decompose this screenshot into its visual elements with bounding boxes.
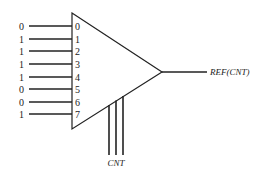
mux-diagram: REF(CNT) 0 1 1 1 1 0 0 1 0 1 2 3 4 5 6 7… — [0, 0, 271, 173]
output-label: REF(CNT) — [209, 67, 250, 77]
input-index-1: 1 — [75, 34, 80, 45]
input-index-4: 4 — [75, 72, 80, 83]
mux-body — [72, 13, 162, 129]
input-index-2: 2 — [75, 46, 80, 57]
input-value-3: 1 — [19, 59, 24, 70]
input-index-5: 5 — [75, 84, 80, 95]
input-value-2: 1 — [19, 46, 24, 57]
input-value-1: 1 — [19, 34, 24, 45]
input-index-0: 0 — [75, 21, 80, 32]
input-index-6: 6 — [75, 97, 80, 108]
input-value-6: 0 — [19, 97, 24, 108]
input-value-5: 0 — [19, 84, 24, 95]
input-lines — [29, 26, 72, 114]
input-value-7: 1 — [19, 109, 24, 120]
input-value-4: 1 — [19, 72, 24, 83]
input-value-0: 0 — [19, 21, 24, 32]
input-index-3: 3 — [75, 59, 80, 70]
input-index-7: 7 — [75, 109, 80, 120]
select-label: CNT — [107, 158, 125, 168]
